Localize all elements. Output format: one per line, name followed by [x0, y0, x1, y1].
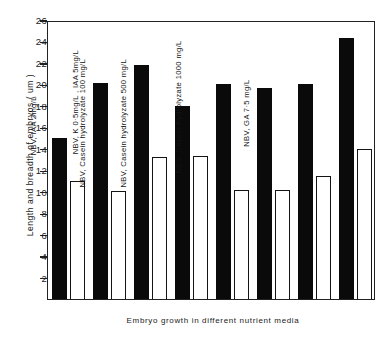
y-tick-label: 24 [25, 36, 47, 47]
y-tick-label: 26 [25, 15, 47, 26]
y-tick-label: 12 [25, 165, 47, 176]
bar-category-label: NBV, IAA 2mg/L [30, 154, 163, 155]
bar-category-label: Nitsch's basic medium (NBV) [0, 188, 122, 189]
bar-category-label: Control in field [0, 178, 81, 179]
bar-category-label: NBV, Casein hydrolyzate 500 mg/L [120, 187, 286, 188]
y-tick-label: 22 [25, 58, 47, 69]
chart-figure: Length and breadth of embryos ( um ) 246… [0, 0, 386, 347]
bar-breadth [275, 190, 291, 299]
bar-breadth [234, 190, 250, 299]
bar-breadth [152, 157, 168, 299]
y-tick-label: 4 [25, 251, 47, 262]
bar-breadth [70, 181, 86, 299]
bar-length [298, 84, 314, 299]
bar-category-label: NBV, Casein hydrolyzate 1000 mg/L [175, 173, 327, 174]
y-tick-label: 8 [25, 208, 47, 219]
y-tick-label: 20 [25, 79, 47, 90]
x-axis-title: Embryo growth in different nutrient medi… [44, 316, 382, 325]
bar-breadth [193, 156, 209, 299]
bar-breadth [316, 176, 332, 299]
bars-container: Control in fieldNitsch's basic medium (N… [48, 22, 374, 299]
y-axis: 2468101214161820222426 [0, 0, 47, 347]
bar-breadth [357, 149, 373, 299]
bar-length [339, 38, 355, 299]
bar-category-label: NBV, GA 7·5 mg/L [243, 146, 368, 147]
y-tick-label: 6 [25, 230, 47, 241]
plot-area: Control in fieldNitsch's basic medium (N… [47, 21, 375, 300]
y-tick-label: 2 [25, 273, 47, 284]
bar-length [257, 88, 273, 299]
bar-length [93, 83, 109, 299]
bar-category-label: NBV, K 0·5mg/L , IAA 5mg/L [72, 153, 204, 154]
bar-breadth [111, 191, 127, 299]
bar-length [216, 84, 232, 299]
bar-length [134, 65, 150, 299]
bar-length [52, 138, 68, 299]
